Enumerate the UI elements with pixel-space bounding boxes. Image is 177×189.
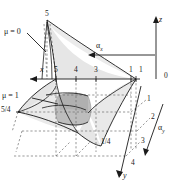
x-tick-4: 4 — [74, 66, 78, 74]
mu-one-label: μ = 1 — [2, 92, 19, 100]
x-tick-1a: 1 — [129, 66, 133, 74]
x-tick-3: 3 — [94, 66, 98, 74]
y-tick-4: 4 — [131, 159, 135, 167]
x-tick-1b: 1 — [139, 66, 143, 74]
left-corner-value: 5/4 — [1, 106, 11, 114]
y-tick-2: 2 — [151, 113, 155, 121]
x-tick-5: 5 — [54, 66, 58, 74]
apex-value-label: 5 — [45, 10, 49, 18]
alpha-x-label: αx — [96, 42, 103, 52]
y-tick-1: 1 — [147, 95, 151, 103]
alpha-y-label: αy — [158, 124, 165, 134]
origin-label: 0 — [164, 72, 168, 80]
figure-canvas: μ = 0 μ = 1 5 x z y 0 5 4 3 1 1 1 2 3 4 … — [0, 0, 177, 189]
x-axis-label: x — [40, 66, 44, 74]
z-axis-label: z — [159, 16, 162, 24]
alpha-x-subscript: x — [100, 46, 102, 52]
y-axis-label: y — [123, 172, 127, 180]
alpha-y-subscript: y — [162, 128, 164, 134]
mu-zero-label: μ = 0 — [4, 28, 21, 36]
y-tick-3: 3 — [141, 137, 145, 145]
bottom-corner-value: 1/4 — [101, 138, 111, 146]
